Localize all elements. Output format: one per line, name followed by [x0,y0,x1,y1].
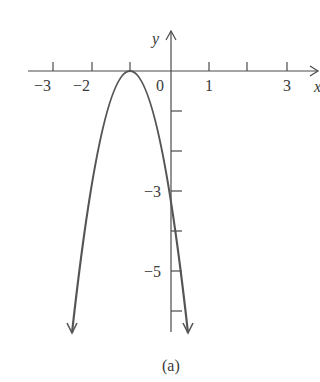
figure-caption: (a) [162,357,180,375]
parabola-chart: y x 0 −3 −2 1 3 −3 −5 (a) [0,0,320,382]
x-tick-label-neg2: −2 [73,77,90,94]
y-axis-label: y [150,30,160,48]
y-tick-label-neg3: −3 [144,183,161,200]
x-axis-label: x [313,78,320,95]
y-tick-label-neg5: −5 [144,263,161,280]
x-axis [28,62,318,76]
x-tick-label-neg3: −3 [34,77,51,94]
parabola-curve [67,71,193,333]
x-tick-label-1: 1 [205,77,213,94]
origin-label: 0 [156,77,164,94]
x-tick-label-3: 3 [283,77,291,94]
